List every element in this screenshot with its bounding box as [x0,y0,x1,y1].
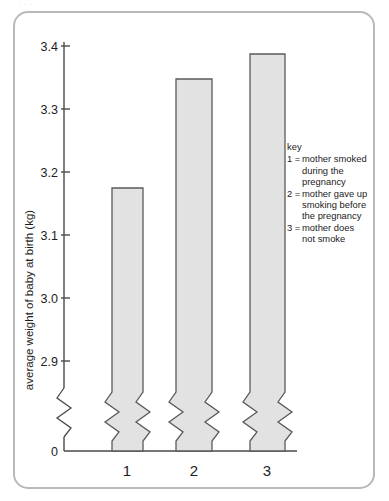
y-axis-break-zigzag [57,388,71,437]
y-tick-label-3.2: 3.2 [41,166,58,180]
y-tick-label-3.1: 3.1 [41,229,58,243]
key-text-2-line-2: smoking before [302,199,379,210]
x-tick-label-1: 1 [123,462,131,479]
key-marker-3: 3 = [287,222,300,233]
y-axis-origin-label: 0 [51,445,58,459]
x-tick-label-3: 3 [263,462,271,479]
key-text-2-line-3: the pregnancy [302,210,379,221]
key-text-2-line-1: mother gave up [302,188,379,199]
y-tick-label-2.9: 2.9 [41,355,58,369]
chart-key: key 1 = mother smoked during the pregnan… [287,141,379,245]
key-text-1-line-2: during the [302,165,379,176]
key-title: key [287,141,379,152]
bar-category-2 [169,79,219,451]
y-tick-label-3.3: 3.3 [41,103,58,117]
key-entry-2: 2 = mother gave up smoking before the pr… [287,188,379,222]
key-marker-1: 1 = [287,153,300,164]
key-text-3-line-2: not smoke [302,233,379,244]
key-marker-2: 2 = [287,188,300,199]
bar-chart-plot: average weight of baby at birth (kg) 3.4… [0,0,389,501]
y-tick-label-3.4: 3.4 [41,40,58,54]
key-text-1-line-1: mother smoked [302,153,379,164]
figure-page: · · · average weight of baby at birth (k… [0,0,389,501]
key-entry-1: 1 = mother smoked during the pregnancy [287,153,379,187]
x-tick-label-2: 2 [190,462,198,479]
bar-category-1 [105,188,150,451]
y-axis-title: average weight of baby at birth (kg) [23,210,35,390]
key-entry-3: 3 = mother does not smoke [287,222,379,245]
y-tick-label-3.0: 3.0 [41,292,58,306]
bar-category-3 [243,54,292,451]
key-text-3-line-1: mother does [302,222,379,233]
key-text-1-line-3: pregnancy [302,176,379,187]
